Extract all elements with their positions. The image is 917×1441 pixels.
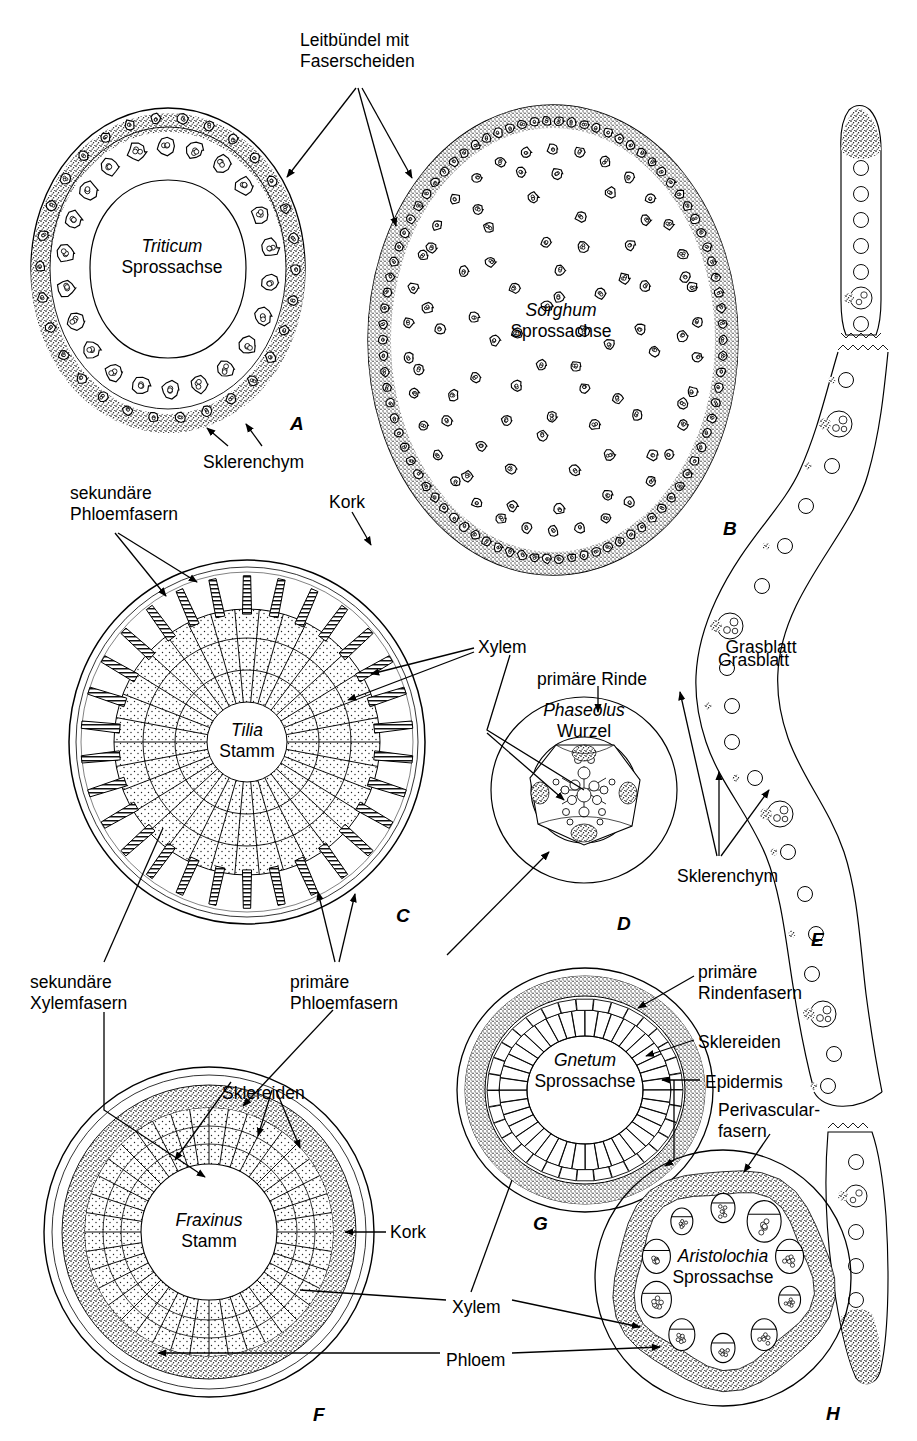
vascular-bundle — [379, 336, 388, 344]
xylem-vessel — [561, 786, 569, 794]
caption-species: Fraxinus — [119, 1210, 299, 1231]
vascular-bundle — [580, 551, 588, 560]
xylem-wedge — [559, 1141, 576, 1169]
sclerenchyma-cap — [771, 849, 778, 856]
vascular-bundle — [157, 137, 174, 156]
caption-species: Triticum — [82, 236, 262, 257]
vascular-bundle — [419, 421, 428, 430]
vascular-bundle — [214, 155, 232, 173]
vascular-bundle — [218, 361, 235, 376]
vascular-bundle — [554, 117, 564, 125]
mesophyll-cell — [755, 579, 770, 594]
phloem-fibre-wedge — [356, 656, 393, 682]
panel-letter-b: B — [723, 518, 737, 540]
vascular-bundle — [601, 514, 611, 523]
mesophyll-cell — [854, 161, 869, 176]
vascular-bundle — [589, 420, 600, 430]
phloem-fibre-wedge — [101, 656, 138, 682]
vascular-bundle — [484, 223, 494, 233]
vascular-bundle — [537, 430, 548, 441]
vascular-bundle — [57, 245, 74, 262]
vascular-bundle — [395, 429, 404, 437]
xylem-wedge — [640, 1098, 670, 1114]
vascular-bundle — [649, 346, 659, 357]
vascular-bundle — [422, 303, 433, 313]
mesophyll-cell — [725, 735, 740, 750]
vascular-bundle — [516, 167, 526, 177]
vascular-bundle — [580, 121, 589, 129]
vascular-bundle — [202, 406, 212, 417]
phloem-fibre-wedge — [374, 721, 413, 733]
vascular-bundle — [239, 336, 255, 353]
vascular-bundle — [711, 399, 720, 407]
vascular-bundle — [471, 373, 481, 383]
label-sklereiden-f: Sklereiden — [222, 1083, 305, 1104]
vascular-bundle — [383, 288, 392, 297]
phloem-fibre-wedge — [242, 576, 251, 614]
vascular-bundle — [711, 1193, 735, 1222]
sclerenchyma-cap — [803, 1008, 815, 1020]
vascular-bundle — [592, 123, 600, 132]
xylem-vessel — [597, 819, 603, 825]
vascular-bundle — [226, 394, 236, 405]
vascular-bundle — [528, 192, 539, 203]
leader-sek-phloem-1 — [115, 533, 166, 596]
vascular-bundle — [422, 483, 432, 491]
vascular-bundle — [472, 498, 482, 507]
xylem-vessel — [599, 809, 606, 816]
label-kork-c: Kork — [329, 492, 365, 513]
caption-species: Tilia — [157, 720, 337, 741]
vascular-bundle — [288, 296, 298, 306]
panel-letter-g: G — [533, 1213, 548, 1235]
vascular-bundle — [442, 416, 453, 426]
xylem-vessel — [553, 779, 559, 785]
vascular-bundle — [678, 420, 689, 431]
vascular-bundle — [575, 212, 586, 222]
vascular-bundle — [472, 174, 482, 183]
sclerenchyma-cap — [829, 377, 836, 384]
vascular-bundle — [404, 352, 413, 363]
vascular-bundle — [501, 416, 511, 426]
vascular-bundle — [409, 388, 419, 398]
vascular-bundle — [496, 514, 506, 523]
label-sklerenchym-e: Sklerenchym — [677, 866, 778, 887]
sclerenchyma-cap — [811, 1083, 818, 1090]
vascular-bundle — [664, 220, 674, 231]
vascular-bundle — [485, 258, 496, 268]
phloem-fibre-wedge — [319, 605, 348, 641]
phloem-block — [593, 999, 611, 1013]
vascular-bundle — [697, 229, 707, 237]
vascular-bundle — [687, 282, 697, 291]
sclerenchyma-cap — [763, 543, 770, 550]
caption-organ: Stamm — [119, 1231, 299, 1252]
caption-organ: Sprossachse — [471, 321, 651, 342]
vascular-bundle — [592, 548, 601, 557]
vascular-bundle — [640, 281, 650, 292]
vascular-bundle — [521, 147, 531, 157]
leader-sklerenchym-a1 — [207, 428, 228, 446]
mesophyll-cell — [778, 539, 793, 554]
vascular-bundle — [511, 380, 521, 391]
vascular-bundle — [473, 205, 483, 215]
vascular-bundle — [571, 362, 581, 371]
vascular-bundle — [678, 250, 689, 259]
vascular-bundle — [449, 390, 458, 401]
vascular-bundle — [187, 142, 204, 158]
phloem-fibre-wedge — [176, 589, 199, 627]
vascular-bundle — [235, 176, 253, 195]
vascular-bundle — [604, 128, 613, 137]
vascular-bundle — [162, 381, 179, 400]
phloem-fibre-wedge — [339, 628, 373, 660]
vascular-bundle — [646, 477, 655, 487]
xylem-vessel — [600, 786, 608, 794]
leader-leitbuendel-b2 — [362, 88, 412, 178]
phloem-fibre-wedge — [146, 605, 175, 641]
phloem-block — [577, 1170, 595, 1181]
mesophyll-cell — [799, 499, 814, 514]
label-leitbuendel-mit-faserscheiden: Leitbündel mit Faserscheiden — [300, 30, 415, 71]
caption-tilia: TiliaStamm — [157, 720, 337, 763]
vascular-bundle — [751, 1319, 777, 1351]
vascular-bundle — [505, 124, 514, 132]
phloem-fibre-wedge — [81, 721, 120, 733]
vascular-bundle — [692, 353, 703, 362]
